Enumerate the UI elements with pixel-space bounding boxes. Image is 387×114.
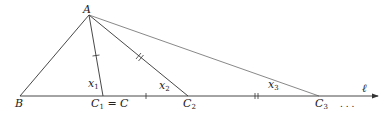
label-l: ℓ bbox=[362, 82, 367, 95]
segment-ab bbox=[20, 15, 89, 96]
label-c3: C3 bbox=[315, 97, 328, 111]
continuation-dots: . . . bbox=[340, 99, 354, 109]
segment-ac3 bbox=[89, 15, 319, 96]
tick-mark-ac1 bbox=[93, 55, 100, 56]
label-c1-equals-c: C1 = C bbox=[91, 97, 129, 111]
label-c2: C2 bbox=[183, 97, 196, 111]
label-b: B bbox=[14, 97, 23, 110]
label-a: A bbox=[82, 3, 91, 16]
geometry-diagram: A B C1 = C C2 C3 x1 x2 x3 ℓ . . . bbox=[0, 0, 387, 114]
label-x2: x2 bbox=[159, 79, 170, 93]
label-x3: x3 bbox=[268, 78, 279, 92]
label-x1: x1 bbox=[88, 77, 99, 91]
